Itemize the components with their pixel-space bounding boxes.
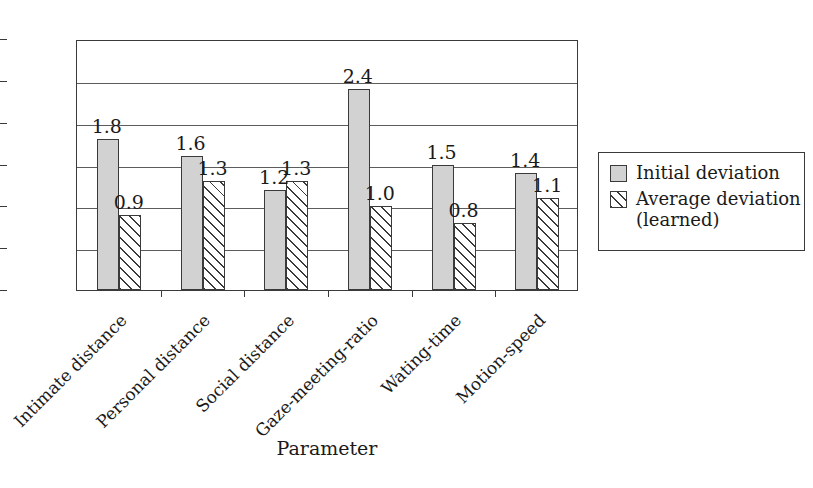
x-axis-label-4: Wating-time (379, 311, 465, 397)
chart-legend: Initial deviation Average deviation (lea… (598, 152, 805, 251)
bar-value-label-1-1: 1.3 (186, 159, 240, 178)
x-axis-label-5: Motion-speed (453, 311, 548, 406)
y-axis-tick-mark (0, 206, 7, 207)
bar-value-label-0-0: 1.8 (80, 117, 134, 136)
y-axis-tick-mark (0, 248, 7, 249)
legend-label-average-deviation-line1: Average deviation (636, 188, 801, 209)
legend-entry-average-deviation: Average deviation (learned) (610, 188, 804, 230)
y-axis-tick-mark (0, 290, 7, 291)
legend-label-average-deviation: Average deviation (learned) (636, 188, 801, 230)
x-axis-category-divider (161, 290, 162, 297)
bar-value-label-1-5: 1.1 (520, 176, 574, 195)
bar-1-1 (203, 181, 225, 290)
y-axis-tick-mark (0, 39, 7, 40)
y-axis: 00.511.522.53 (0, 0, 76, 291)
bar-1-5 (537, 198, 559, 290)
legend-label-average-deviation-line2: (learned) (636, 209, 720, 230)
y-axis-tick-mark (0, 123, 7, 124)
bar-value-label-0-4: 1.5 (415, 143, 469, 162)
bar-1-0 (119, 215, 141, 290)
bar-0-0 (97, 139, 119, 290)
bar-1-2 (286, 181, 308, 290)
bar-0-2 (264, 190, 286, 290)
bar-1-3 (370, 206, 392, 290)
bar-value-label-1-0: 0.9 (102, 193, 156, 212)
legend-entry-initial-deviation: Initial deviation (610, 162, 804, 183)
y-axis-tick-mark (0, 81, 7, 82)
bar-value-label-1-4: 0.8 (437, 201, 491, 220)
bar-value-label-1-3: 1.0 (353, 184, 407, 203)
bar-1-4 (454, 223, 476, 290)
x-axis-category-divider (495, 290, 496, 297)
solid-gray-square-icon (610, 165, 627, 182)
x-axis-category-divider (244, 290, 245, 297)
gridline (77, 250, 577, 251)
y-axis-tick-mark (0, 165, 7, 166)
legend-label-initial-deviation: Initial deviation (636, 162, 780, 183)
x-axis-title: Parameter (76, 437, 578, 459)
x-axis-category-divider (412, 290, 413, 297)
bar-0-4 (432, 165, 454, 291)
x-axis-category-divider (328, 290, 329, 297)
bar-chart-figure: 00.511.522.53 Intimate distancePersonal … (0, 0, 813, 488)
bar-value-label-0-3: 2.4 (331, 67, 385, 86)
bar-value-label-1-2: 1.3 (269, 159, 323, 178)
gridline (77, 83, 577, 84)
bar-value-label-0-1: 1.6 (164, 134, 218, 153)
bar-value-label-0-5: 1.4 (498, 151, 552, 170)
gridline (77, 125, 577, 126)
hatched-square-icon (610, 191, 627, 208)
